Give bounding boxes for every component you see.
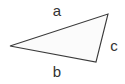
side-label-a: a xyxy=(49,3,65,18)
triangle-outline xyxy=(10,14,108,62)
side-label-c: c xyxy=(107,38,121,53)
triangle-diagram: a b c xyxy=(0,0,125,84)
side-label-b: b xyxy=(49,64,65,79)
